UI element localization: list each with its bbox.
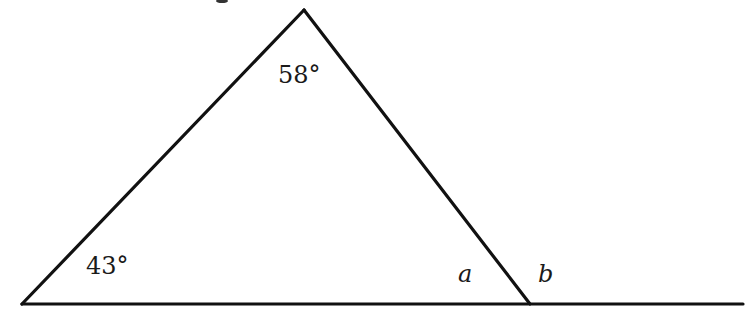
clipped-text-fragment: [216, 0, 228, 3]
interior-angle-a-label: a: [458, 260, 472, 288]
left-side: [22, 10, 304, 304]
bottom-left-angle-label: 43°: [86, 252, 129, 280]
exterior-angle-b-label: b: [538, 260, 553, 288]
apex-angle-label: 58°: [278, 61, 321, 89]
triangle-diagram: 58° 43° a b: [0, 0, 745, 314]
right-side: [304, 10, 530, 304]
